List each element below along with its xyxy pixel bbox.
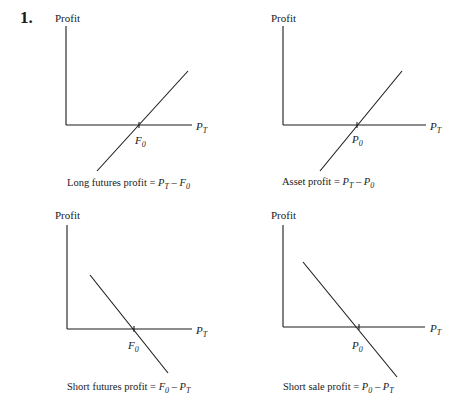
panel-3-profit-line	[90, 275, 168, 373]
panel-2-caption: Asset profit = PT – P0	[282, 177, 374, 190]
panel-1-profit-line	[97, 71, 188, 171]
panel-4-caption: Short sale profit = P0 – PT	[283, 382, 394, 395]
panel-1-y-label: Profit	[55, 13, 80, 24]
panel-1-x-label: PT	[196, 121, 207, 135]
panel-4-x-label: PT	[430, 323, 441, 337]
panel-2-y-label: Profit	[271, 13, 296, 24]
panel-1-intercept-label: F0	[135, 135, 146, 149]
diagram-graphics	[0, 0, 461, 405]
panel-3-intercept-label: F0	[128, 340, 139, 354]
panel-3-caption: Short futures profit = F0 – PT	[67, 382, 190, 395]
panel-4-y-label: Profit	[271, 210, 296, 221]
panel-4-intercept-label: P0	[352, 340, 363, 354]
panel-2-intercept-label: P0	[352, 134, 363, 148]
panel-3-y-label: Profit	[55, 210, 80, 221]
panel-3-x-label: PT	[196, 325, 207, 339]
panel-2-x-label: PT	[430, 121, 441, 135]
panel-4-profit-line	[303, 262, 397, 377]
panel-1-caption: Long futures profit = PT – F0	[67, 178, 190, 191]
panel-2-profit-line	[320, 71, 402, 171]
